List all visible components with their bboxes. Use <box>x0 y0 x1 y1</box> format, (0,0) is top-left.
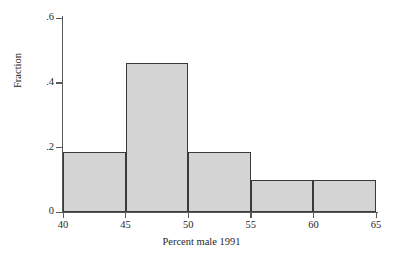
histogram-bar-45-50 <box>126 63 189 212</box>
histogram-bar-60-65 <box>313 180 376 212</box>
x-axis-tick-65 <box>376 212 377 218</box>
x-axis-tick-label-40: 40 <box>58 219 69 230</box>
histogram-bar-55-60 <box>251 180 314 212</box>
y-axis-tick-2 <box>56 82 62 83</box>
x-axis-title: Percent male 1991 <box>0 236 403 247</box>
x-axis-tick-label-65: 65 <box>371 219 382 230</box>
x-axis-tick-60 <box>313 212 314 218</box>
y-axis-tick-label-3: .6 <box>46 12 54 23</box>
y-axis-tick-1 <box>56 147 62 148</box>
y-axis-title: Fraction <box>12 53 23 88</box>
histogram-chart: 0 .2 .4 .6 40 45 50 55 60 65 Percent mal… <box>0 0 403 256</box>
x-axis-tick-40 <box>63 212 64 218</box>
y-axis-tick-label-0: 0 <box>49 206 54 217</box>
y-axis-tick-0 <box>56 212 62 213</box>
histogram-bar-40-45 <box>63 152 126 212</box>
x-axis-tick-label-55: 55 <box>246 219 257 230</box>
x-axis-tick-45 <box>125 212 126 218</box>
y-axis-tick-3 <box>56 18 62 19</box>
x-axis-tick-55 <box>250 212 251 218</box>
x-axis-tick-50 <box>188 212 189 218</box>
histogram-bar-50-55 <box>188 152 251 212</box>
x-axis-tick-label-50: 50 <box>183 219 194 230</box>
x-axis-tick-label-60: 60 <box>308 219 319 230</box>
y-axis-tick-label-1: .2 <box>46 142 54 153</box>
plot-area <box>63 18 376 212</box>
y-axis-tick-label-2: .4 <box>46 77 54 88</box>
x-axis-tick-label-45: 45 <box>120 219 131 230</box>
